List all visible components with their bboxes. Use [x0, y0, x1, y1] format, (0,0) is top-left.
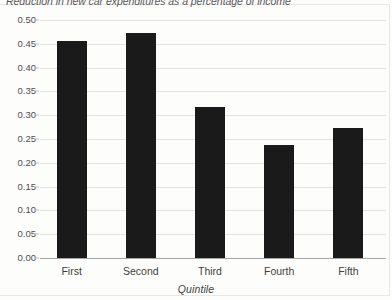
bar: [57, 41, 87, 258]
x-axis-tick-label: Fourth: [264, 266, 294, 277]
y-axis-tick-label: 0.00: [0, 253, 36, 263]
y-axis-tick-label: 0.35: [0, 87, 36, 97]
bar: [126, 33, 156, 258]
y-axis-tick-mark: [34, 20, 39, 21]
bar: [333, 128, 363, 258]
y-axis-tick-mark: [34, 210, 39, 211]
gridline: [40, 91, 386, 92]
bar: [195, 107, 225, 258]
y-axis-tick-label: 0.45: [0, 39, 36, 49]
bar: [264, 145, 294, 258]
y-axis-tick-mark: [34, 258, 39, 259]
y-axis-tick-label: 0.05: [0, 229, 36, 239]
y-axis-tick-mark: [34, 234, 39, 235]
plot-area: [40, 20, 386, 258]
y-axis-tick-label: 0.20: [0, 158, 36, 168]
x-axis-tick-label: First: [61, 266, 81, 277]
gridline: [40, 44, 386, 45]
x-axis-title: Quintile: [0, 283, 392, 295]
x-axis-line: [40, 258, 386, 259]
y-axis-tick-mark: [34, 115, 39, 116]
y-axis-tick-label: 0.25: [0, 134, 36, 144]
y-axis-tick-mark: [34, 91, 39, 92]
y-axis-tick-mark: [34, 43, 39, 44]
y-axis-tick-mark: [34, 186, 39, 187]
y-axis-tick-label: 0.50: [0, 15, 36, 25]
y-axis-tick-label: 0.15: [0, 182, 36, 192]
y-axis-tick-label: 0.10: [0, 206, 36, 216]
y-axis-tick-label: 0.40: [0, 63, 36, 73]
y-axis-tick-mark: [34, 162, 39, 163]
x-axis-tick-label: Second: [123, 266, 159, 277]
x-axis-tick-label: Third: [198, 266, 222, 277]
y-axis-tick-mark: [34, 139, 39, 140]
y-axis-tick-label: 0.30: [0, 110, 36, 120]
gridline: [40, 20, 386, 21]
chart-title: Reduction in new car expenditures as a p…: [6, 0, 386, 9]
gridline: [40, 68, 386, 69]
bar-chart-figure: Reduction in new car expenditures as a p…: [0, 0, 392, 300]
y-axis-tick-mark: [34, 67, 39, 68]
x-axis-tick-label: Fifth: [338, 266, 358, 277]
